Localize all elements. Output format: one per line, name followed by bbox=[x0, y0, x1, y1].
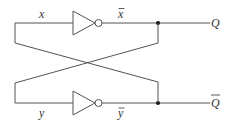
latch-circuit-diagram: x x Q y y Q bbox=[0, 0, 236, 125]
top-gate-triangle bbox=[73, 11, 95, 35]
label-x: x bbox=[38, 7, 45, 21]
bottom-gate-bubble bbox=[95, 100, 102, 107]
label-y: y bbox=[38, 106, 45, 120]
label-q-bar-group: Q bbox=[211, 95, 220, 110]
label-q-bar: Q bbox=[211, 96, 220, 110]
bottom-not-gate bbox=[73, 91, 102, 115]
top-gate-bubble bbox=[95, 20, 102, 27]
circuit-svg: x x Q y y Q bbox=[0, 0, 236, 125]
label-x-bar: x bbox=[117, 7, 124, 21]
top-not-gate bbox=[73, 11, 102, 35]
bottom-gate-triangle bbox=[73, 91, 95, 115]
label-y-bar-group: y bbox=[117, 106, 125, 120]
label-q: Q bbox=[211, 16, 220, 30]
label-x-bar-group: x bbox=[117, 7, 125, 21]
